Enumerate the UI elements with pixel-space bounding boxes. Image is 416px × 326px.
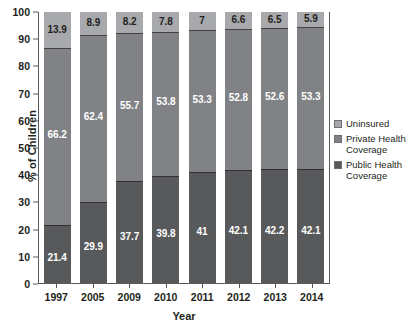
bar-value-label: 55.7 [120, 101, 139, 111]
x-tick-mark [56, 284, 57, 288]
bar-value-label: 7 [199, 16, 205, 26]
bar-segment[interactable]: 8.9 [80, 12, 107, 36]
y-tick-label: 30 [18, 196, 30, 208]
bar-segment[interactable]: 13.9 [44, 12, 71, 49]
x-tick-mark [275, 284, 276, 288]
bar-segment[interactable]: 55.7 [116, 34, 143, 183]
bar-segment[interactable]: 37.7 [116, 182, 143, 283]
legend: UninsuredPrivate Health CoveragePublic H… [334, 118, 416, 185]
x-tick: 2005 [79, 284, 106, 303]
x-tick-label: 2005 [79, 291, 106, 303]
y-tick-label: 20 [18, 224, 30, 236]
legend-item[interactable]: Uninsured [334, 118, 416, 129]
x-tick: 2011 [189, 284, 216, 303]
bar-group[interactable]: 6.552.642.2 [261, 12, 288, 283]
x-tick: 2014 [298, 284, 325, 303]
legend-item[interactable]: Public Health Coverage [334, 159, 416, 181]
bar-value-label: 42.2 [265, 226, 284, 236]
legend-label: Uninsured [346, 118, 389, 129]
bar-segment[interactable]: 6.6 [225, 12, 252, 30]
y-tick-label: 40 [18, 169, 30, 181]
bar-segment[interactable]: 66.2 [44, 49, 71, 226]
x-tick-mark [312, 284, 313, 288]
bar-value-label: 53.3 [301, 92, 320, 102]
legend-swatch-icon [334, 120, 342, 128]
bar-segment[interactable]: 41 [189, 173, 216, 283]
y-tick-label: 100 [12, 6, 30, 18]
x-tick: 1997 [43, 284, 70, 303]
bar-value-label: 6.6 [231, 15, 245, 25]
bar-value-label: 52.6 [265, 92, 284, 102]
bar-group[interactable]: 7.853.839.8 [152, 12, 179, 283]
bar-value-label: 7.8 [159, 17, 173, 27]
bar-segment[interactable]: 8.2 [116, 12, 143, 34]
bar-value-label: 62.4 [84, 112, 103, 122]
bar-segment[interactable]: 7.8 [152, 12, 179, 33]
bar-segment[interactable]: 39.8 [152, 177, 179, 283]
x-tick-label: 2009 [116, 291, 143, 303]
bar-value-label: 5.9 [304, 14, 318, 24]
bar-value-label: 8.2 [123, 17, 137, 27]
legend-swatch-icon [334, 161, 342, 169]
bar-segment[interactable]: 5.9 [297, 12, 324, 28]
bar-group[interactable]: 6.652.842.1 [225, 12, 252, 283]
y-tick-label: 60 [18, 115, 30, 127]
x-tick-mark [166, 284, 167, 288]
x-tick-label: 2011 [189, 291, 216, 303]
x-tick-mark [202, 284, 203, 288]
bar-group[interactable]: 753.341 [189, 12, 216, 283]
bar-segment[interactable]: 53.3 [189, 31, 216, 174]
y-tick-label: 90 [18, 33, 30, 45]
x-tick-mark [129, 284, 130, 288]
bar-value-label: 41 [197, 227, 208, 237]
x-tick-mark [239, 284, 240, 288]
bar-value-label: 53.3 [192, 95, 211, 105]
x-tick-label: 1997 [43, 291, 70, 303]
legend-swatch-icon [334, 135, 342, 143]
bar-segment[interactable]: 52.8 [225, 30, 252, 171]
x-tick-labels: 19972005200920102011201220132014 [38, 284, 330, 303]
bar-value-label: 66.2 [47, 130, 66, 140]
bar-segment[interactable]: 7 [189, 12, 216, 31]
legend-item[interactable]: Private Health Coverage [334, 133, 416, 155]
bar-segment[interactable]: 42.1 [225, 171, 252, 283]
bar-segment[interactable]: 21.4 [44, 226, 71, 283]
bar-group[interactable]: 5.953.342.1 [297, 12, 324, 283]
bar-segment[interactable]: 53.8 [152, 33, 179, 177]
bar-value-label: 42.1 [229, 226, 248, 236]
bar-group[interactable]: 8.962.429.9 [80, 12, 107, 283]
x-tick: 2009 [116, 284, 143, 303]
bar-value-label: 29.9 [84, 242, 103, 252]
x-tick-label: 2013 [262, 291, 289, 303]
bar-value-label: 37.7 [120, 232, 139, 242]
bar-segment[interactable]: 29.9 [80, 203, 107, 283]
y-tick-label: 70 [18, 88, 30, 100]
bar-segment[interactable]: 42.1 [297, 170, 324, 283]
legend-label: Private Health Coverage [346, 133, 416, 155]
bar-segment[interactable]: 62.4 [80, 36, 107, 203]
bar-group[interactable]: 13.966.221.4 [44, 12, 71, 283]
x-tick: 2013 [262, 284, 289, 303]
bar-value-label: 42.1 [301, 226, 320, 236]
bar-value-label: 6.5 [268, 15, 282, 25]
bar-value-label: 53.8 [156, 97, 175, 107]
y-tick-label: 0 [24, 278, 30, 290]
bar-value-label: 8.9 [86, 18, 100, 28]
legend-label: Public Health Coverage [346, 159, 416, 181]
bar-segment[interactable]: 6.5 [261, 12, 288, 29]
stacked-bar-chart: % of Children 0102030405060708090100 13.… [0, 0, 416, 326]
y-axis: 0102030405060708090100 [0, 0, 38, 326]
x-tick: 2010 [152, 284, 179, 303]
bar-value-label: 13.9 [47, 25, 66, 35]
x-tick-mark [93, 284, 94, 288]
y-tick-label: 80 [18, 60, 30, 72]
y-tick-label: 50 [18, 142, 30, 154]
plot-area: 13.966.221.48.962.429.98.255.737.77.853.… [38, 12, 330, 284]
x-tick: 2012 [225, 284, 252, 303]
x-axis: 19972005200920102011201220132014 Year [38, 284, 330, 314]
bar-segment[interactable]: 53.3 [297, 28, 324, 171]
x-tick-label: 2012 [225, 291, 252, 303]
bar-segment[interactable]: 42.2 [261, 170, 288, 283]
bar-segment[interactable]: 52.6 [261, 29, 288, 170]
bar-group[interactable]: 8.255.737.7 [116, 12, 143, 283]
